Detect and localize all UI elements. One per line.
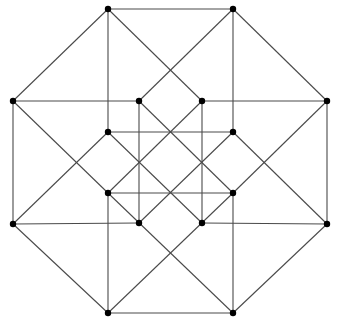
edge-H-A (13, 9, 108, 101)
vertex-J (199, 98, 205, 104)
tesseract-graph (0, 0, 339, 330)
edge-layer (13, 9, 327, 313)
vertex-D (324, 221, 330, 227)
edge-G-N (13, 223, 139, 224)
vertex-C (324, 98, 330, 104)
edge-J-O (108, 101, 202, 193)
edge-G-P (13, 132, 108, 224)
vertex-P (105, 129, 111, 135)
edge-B-C (233, 9, 327, 101)
vertex-I (136, 98, 142, 104)
vertex-O (105, 190, 111, 196)
edge-I-L (139, 101, 233, 193)
vertex-M (199, 220, 205, 226)
vertex-L (230, 190, 236, 196)
edge-H-O (13, 101, 108, 193)
edge-D-E (233, 224, 327, 313)
vertex-N (136, 220, 142, 226)
edge-C-L (233, 101, 327, 193)
vertex-G (10, 221, 16, 227)
edge-K-N (139, 132, 233, 223)
edge-F-G (13, 224, 108, 313)
edge-A-J (108, 9, 202, 101)
edge-P-M (108, 132, 202, 223)
vertex-B (230, 6, 236, 12)
vertex-A (105, 6, 111, 12)
edge-B-I (139, 9, 233, 101)
edge-D-M (202, 223, 327, 224)
vertex-F (105, 310, 111, 316)
edge-D-K (233, 132, 327, 224)
vertex-H (10, 98, 16, 104)
vertex-E (230, 310, 236, 316)
vertex-layer (10, 6, 330, 316)
vertex-K (230, 129, 236, 135)
